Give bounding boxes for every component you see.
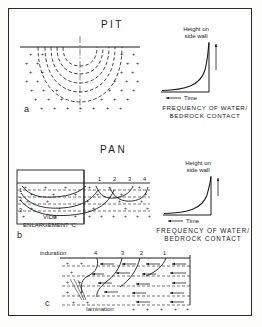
svg-text:+: + [74,213,77,219]
svg-text:+: + [34,96,37,102]
panel-c-stage-2: 2 [140,250,143,256]
svg-text:+: + [124,213,127,219]
svg-text:+: + [36,60,39,66]
panel-c-stage-3: 3 [121,250,124,256]
svg-text:+: + [55,87,58,93]
svg-text:+: + [36,78,39,84]
svg-text:+: + [136,78,139,84]
svg-text:+: + [126,60,129,66]
panel-a-rock-marks: ++++ ++++ ++++ +++++ ++++++ ++++++ +++++… [25,51,139,111]
svg-text:+: + [92,105,95,111]
panel-b-stage-3: 3 [128,176,131,182]
svg-text:+: + [64,184,67,190]
panel-b-x-label: Time [186,218,200,224]
panel-b-y-label-line2: side wall [186,167,209,173]
svg-text:+: + [124,205,127,211]
panel-b-pan-diagram: 1 2 3 4 1 2 3 ++++++ ++++++ +++++ +++++ … [17,170,151,240]
svg-text:+: + [112,213,115,219]
svg-text:+: + [86,299,89,305]
panel-b-title: PAN [100,144,127,155]
svg-text:+: + [60,96,63,102]
svg-text:+: + [144,191,147,197]
svg-text:+: + [46,198,49,204]
svg-text:+: + [113,96,116,102]
panel-b-caption-line1: FREQUENCY OF WATER/ [156,227,250,235]
svg-text:+: + [47,96,50,102]
panel-a-graph: Height on side wall Time FREQUENCY OF WA… [161,26,248,119]
svg-text:+: + [126,96,129,102]
svg-text:+: + [66,260,69,266]
svg-text:+: + [119,105,122,111]
svg-text:+: + [96,191,99,197]
svg-text:+: + [120,51,123,57]
panel-b-vide-label-line1: VIDE [43,214,57,220]
panel-b-letter: b [17,230,22,240]
svg-text:+: + [118,198,121,204]
svg-text:+: + [70,269,73,275]
panel-a-letter: a [24,104,29,114]
svg-text:+: + [100,213,103,219]
panel-b-graph: Height on side wall Time FREQUENCY OF WA… [156,160,250,242]
panel-b-stage-1: 1 [98,176,101,182]
panel-b-y-label-line1: Height on [185,160,211,166]
panel-b-vide-label-line2: ENLARGEMENT 'C' [23,222,77,228]
svg-text:+: + [146,306,149,312]
svg-text:+: + [72,299,75,305]
panel-a-y-label-line2: side wall [184,33,207,39]
panel-c-lamination-label: lamination [86,306,113,312]
panel-c-induration-label: induration [40,250,66,256]
svg-text:+: + [30,205,33,211]
svg-text:+: + [40,105,43,111]
figure-root: PIT ++++ ++++ ++++ +++++ ++++++ ++++++ +… [0,0,262,327]
svg-text:+: + [25,60,28,66]
svg-text:+: + [160,306,163,312]
panel-a-title: PIT [101,19,124,30]
svg-text:+: + [88,213,91,219]
svg-text:+: + [74,191,77,197]
svg-text:+: + [29,51,32,57]
svg-text:+: + [120,87,123,93]
panel-a-y-label-line1: Height on [183,26,209,32]
svg-text:+: + [66,105,69,111]
svg-text:+: + [136,60,139,66]
svg-text:+: + [30,191,33,197]
panel-a-caption-line2: BEDROCK CONTACT [170,112,241,119]
svg-text:+: + [41,51,44,57]
svg-text:+: + [138,184,141,190]
svg-text:+: + [92,205,95,211]
panel-c-letter: c [45,298,50,308]
svg-text:+: + [136,213,139,219]
panel-a-pit-diagram: ++++ ++++ ++++ +++++ ++++++ ++++++ +++++… [20,36,140,114]
panel-b-stage-2: 2 [113,176,116,182]
svg-text:+: + [125,78,128,84]
svg-text:+: + [113,78,116,84]
svg-text:+: + [88,184,91,190]
svg-text:+: + [44,184,47,190]
svg-text:+: + [146,205,149,211]
svg-text:+: + [26,198,29,204]
svg-text:+: + [148,213,151,219]
svg-text:+: + [42,87,45,93]
panel-b-caption-line2: BEDROCK CONTACT [164,235,241,242]
svg-text:+: + [41,69,44,75]
svg-text:+: + [79,105,82,111]
svg-text:+: + [30,87,33,93]
svg-text:+: + [80,289,83,295]
svg-text:+: + [132,51,135,57]
svg-text:+: + [131,69,134,75]
svg-text:+: + [174,306,177,312]
svg-text:+: + [132,306,135,312]
svg-text:+: + [29,69,32,75]
svg-text:+: + [186,306,189,312]
svg-text:+: + [53,105,56,111]
svg-text:+: + [80,260,83,266]
panel-c-stage-4: 4 [94,250,97,256]
svg-text:+: + [140,198,143,204]
panel-b-layer-2: 2 [19,196,22,202]
svg-text:+: + [108,87,111,93]
svg-text:+: + [66,279,69,285]
svg-text:+: + [120,69,123,75]
panel-c-stage-1: 1 [163,250,166,256]
svg-text:+: + [25,78,28,84]
panel-c-detail-diagram: induration 4 3 2 1 [40,250,190,312]
